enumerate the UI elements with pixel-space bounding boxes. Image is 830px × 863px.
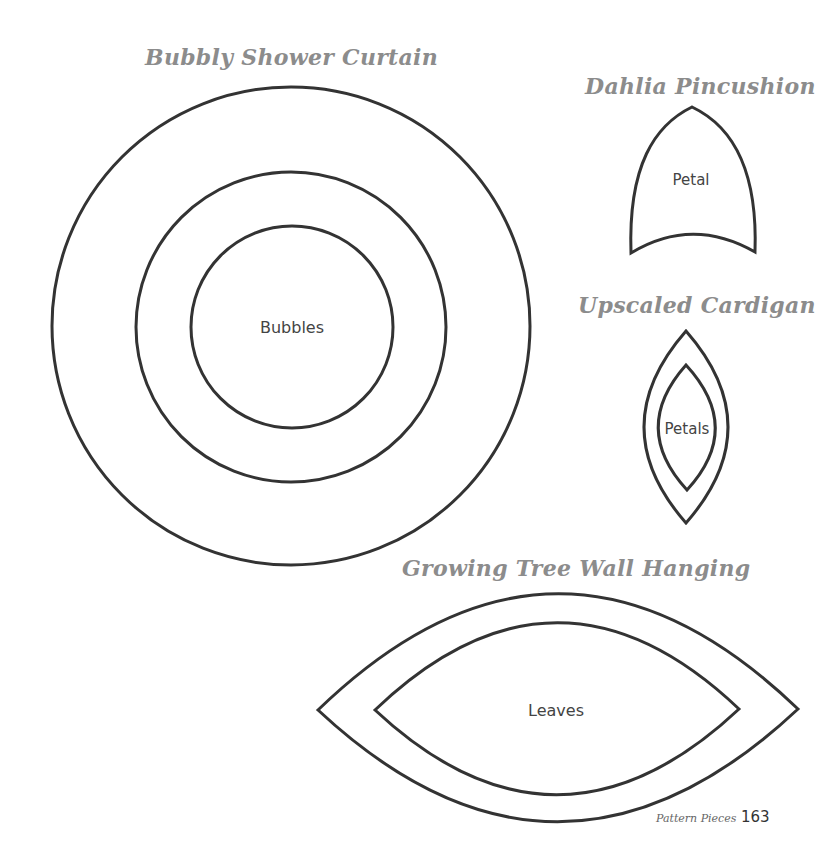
footer-page-number: 163 <box>741 808 770 826</box>
footer-section-name: Pattern Pieces <box>656 812 736 825</box>
piece-label-leaves: Leaves <box>528 701 584 720</box>
piece-label-petals: Petals <box>665 420 710 438</box>
piece-label-petal: Petal <box>673 171 710 189</box>
piece-label-bubbles: Bubbles <box>260 318 324 337</box>
pattern-page: Bubbly Shower Curtain Dahlia Pincushion … <box>0 0 830 863</box>
